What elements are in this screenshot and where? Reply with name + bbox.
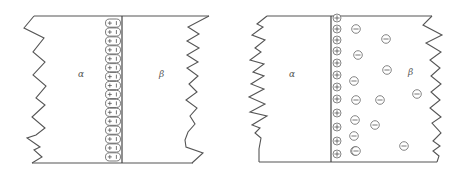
dipole-capsule (106, 37, 121, 45)
dipole (106, 99, 121, 107)
dipole (106, 126, 121, 134)
dipole (106, 144, 121, 152)
dipole (106, 90, 121, 98)
phase-beta-label: β (158, 69, 164, 79)
negative-charge (382, 35, 391, 44)
dipole-capsule (106, 55, 121, 63)
dipole-capsule (106, 46, 121, 54)
dipole-capsule (106, 73, 121, 81)
dipole-capsule (106, 99, 121, 107)
positive-charge (333, 25, 341, 33)
panel-compact-layer: α β (24, 16, 209, 163)
dipole (106, 55, 121, 63)
dipole-capsule (106, 108, 121, 116)
positive-charge (333, 123, 341, 131)
negative-charge (352, 96, 361, 105)
dipole (106, 28, 121, 36)
positive-charge (333, 59, 341, 67)
phase-beta-label: β (407, 67, 413, 77)
dipole (106, 108, 121, 116)
dipole-capsule (106, 81, 121, 89)
positive-charge (333, 137, 341, 145)
negative-charge (350, 132, 359, 141)
dipole-capsule (106, 144, 121, 152)
double-layer-diagram: α β α β (0, 0, 467, 182)
dipole (106, 19, 121, 27)
dipole-capsule (106, 64, 121, 72)
right-jagged-edge (185, 16, 209, 163)
negative-charge (352, 147, 361, 156)
dipole-layer (106, 19, 121, 161)
positive-charge (333, 95, 341, 103)
negative-charge (351, 116, 360, 125)
positive-charge (333, 150, 341, 158)
negative-charge (383, 66, 392, 75)
dipole (106, 37, 121, 45)
negative-charge (371, 121, 380, 130)
negative-charge (376, 96, 385, 105)
dipole-capsule (106, 90, 121, 98)
dipole-capsule (106, 117, 121, 125)
dipole (106, 46, 121, 54)
negative-charge (400, 142, 409, 151)
dipole (106, 135, 121, 143)
dipole (106, 117, 121, 125)
left-jagged-edge (249, 16, 267, 162)
phase-alpha-label: α (289, 69, 295, 79)
dipole (106, 64, 121, 72)
dipole-capsule (106, 28, 121, 36)
dipole (106, 73, 121, 81)
panel-diffuse-layer: α β (249, 14, 442, 162)
negative-charge (413, 90, 422, 99)
dipole-capsule (106, 153, 121, 161)
phase-alpha-label: α (78, 69, 84, 79)
negative-charge-cloud (350, 25, 422, 156)
negative-charge (352, 25, 361, 34)
negative-charge (354, 51, 363, 60)
left-jagged-edge (24, 16, 46, 163)
right-jagged-edge (423, 16, 442, 162)
dipole (106, 153, 121, 161)
negative-charge (350, 77, 359, 86)
positive-charge-layer (333, 14, 341, 158)
positive-charge (333, 83, 341, 91)
dipole-capsule (106, 126, 121, 134)
positive-charge (333, 109, 341, 117)
dipole (106, 81, 121, 89)
positive-charge (333, 36, 341, 44)
positive-charge (333, 47, 341, 55)
positive-charge (333, 71, 341, 79)
dipole-capsule (106, 19, 121, 27)
dipole-capsule (106, 135, 121, 143)
positive-charge (333, 14, 341, 22)
